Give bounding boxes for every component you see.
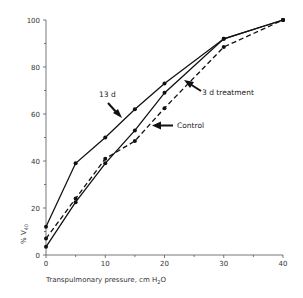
x-tick-label: 10 bbox=[101, 260, 110, 268]
data-point bbox=[44, 225, 48, 229]
annotations: 13 d 3 d treatment Control bbox=[99, 80, 254, 130]
x-axis-title: Transpulmonary pressure, cm H2O bbox=[45, 276, 166, 285]
data-point bbox=[74, 200, 78, 204]
annotation-control: Control bbox=[177, 121, 204, 130]
data-point bbox=[103, 161, 107, 165]
data-point bbox=[103, 157, 107, 161]
arrowhead-control bbox=[152, 122, 161, 130]
axes: 010203040020406080100 bbox=[27, 17, 288, 269]
x-tick-label: 20 bbox=[160, 260, 169, 268]
data-point bbox=[133, 139, 137, 143]
data-point bbox=[74, 197, 78, 201]
x-tick-label: 0 bbox=[44, 260, 48, 268]
y-tick-label: 60 bbox=[31, 111, 40, 119]
y-axis-title: % V40 bbox=[20, 224, 29, 244]
data-point bbox=[222, 45, 226, 49]
data-point bbox=[133, 128, 137, 132]
y-tick-label: 100 bbox=[27, 17, 40, 25]
data-point bbox=[44, 245, 48, 249]
x-tick-label: 40 bbox=[279, 260, 288, 268]
data-point bbox=[163, 91, 167, 95]
x-tick-label: 30 bbox=[219, 260, 228, 268]
y-tick-label: 80 bbox=[31, 64, 40, 72]
y-tick-label: 40 bbox=[31, 158, 40, 166]
y-tick-label: 20 bbox=[31, 205, 40, 213]
annotation-3d-treatment: 3 d treatment bbox=[202, 88, 254, 97]
series-line-0 bbox=[46, 20, 283, 227]
data-point bbox=[163, 81, 167, 85]
data-point bbox=[163, 106, 167, 110]
y-tick-label: 0 bbox=[36, 252, 40, 260]
pressure-volume-chart: 010203040020406080100 13 d 3 d treatment… bbox=[0, 0, 303, 298]
series-line-1 bbox=[46, 20, 283, 247]
data-point bbox=[281, 18, 285, 22]
data-point bbox=[44, 237, 48, 241]
data-point bbox=[74, 161, 78, 165]
axis-titles: Transpulmonary pressure, cm H2O % V40 bbox=[20, 224, 166, 285]
annotation-13d: 13 d bbox=[99, 90, 116, 99]
data-point bbox=[222, 37, 226, 41]
series-group bbox=[44, 18, 285, 249]
data-point bbox=[133, 107, 137, 111]
data-point bbox=[103, 136, 107, 140]
series-line-2 bbox=[46, 20, 283, 239]
